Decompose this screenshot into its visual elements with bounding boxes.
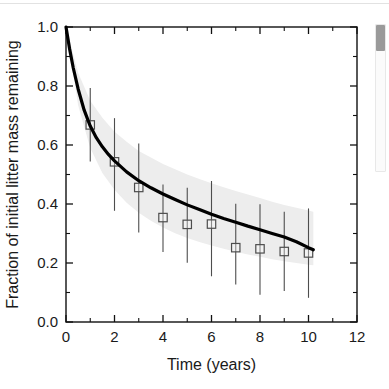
vertical-scrollbar-track[interactable] (375, 24, 386, 172)
y-tick-label: 0.4 (37, 195, 58, 212)
top-divider (0, 3, 389, 4)
x-axis-title: Time (years) (167, 356, 256, 373)
x-tick-label: 4 (159, 328, 167, 345)
data-point-marker (256, 245, 264, 253)
x-tick-label: 12 (349, 328, 366, 345)
x-tick-label: 6 (207, 328, 215, 345)
data-point-marker (159, 213, 167, 221)
y-axis-title: Fraction of initial litter mass remainin… (4, 40, 21, 309)
page-root: 0246810120.00.20.40.60.81.0Time (years)F… (0, 0, 389, 389)
data-point-marker (280, 247, 288, 255)
chart-figure: 0246810120.00.20.40.60.81.0Time (years)F… (0, 6, 366, 389)
data-point-marker (183, 220, 191, 228)
x-tick-label: 8 (256, 328, 264, 345)
y-tick-label: 0.2 (37, 254, 58, 271)
vertical-scrollbar-thumb[interactable] (376, 25, 385, 51)
x-tick-label: 10 (300, 328, 317, 345)
litter-mass-decay-chart: 0246810120.00.20.40.60.81.0Time (years)F… (0, 6, 366, 389)
x-tick-label: 2 (110, 328, 118, 345)
data-point-marker (135, 183, 143, 191)
y-tick-label: 0.0 (37, 313, 58, 330)
data-point-marker (207, 220, 215, 228)
y-tick-label: 0.6 (37, 136, 58, 153)
y-tick-label: 1.0 (37, 18, 58, 35)
y-tick-label: 0.8 (37, 77, 58, 94)
data-point-marker (232, 243, 240, 251)
x-tick-label: 0 (62, 328, 70, 345)
